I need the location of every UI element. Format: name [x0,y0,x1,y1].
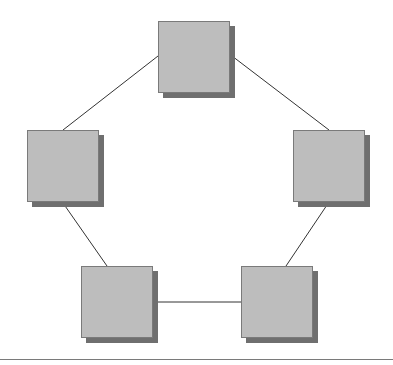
node-square [293,130,365,202]
node-top [158,21,230,93]
node-square [27,130,99,202]
node-bottom-right [241,266,313,338]
node-left [27,130,99,202]
edge-right-bottomright [286,202,329,266]
node-square [81,266,153,338]
edge-left-bottomleft [63,203,107,266]
node-bottom-left [81,266,153,338]
edge-top-right [232,56,329,130]
edge-top-left [63,56,158,130]
horizontal-divider [0,359,393,360]
node-square [158,21,230,93]
node-square [241,266,313,338]
node-right [293,130,365,202]
